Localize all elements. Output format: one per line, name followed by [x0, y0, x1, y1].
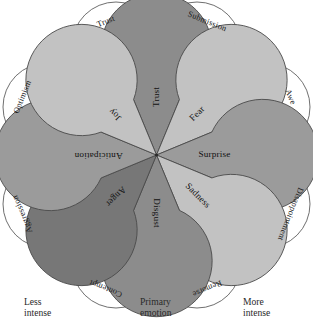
- intensity-axis-row: Less intense Primary emotion More intens…: [0, 296, 313, 320]
- axis-label-more: More intense: [243, 296, 270, 318]
- petal-label: Trust: [151, 87, 161, 107]
- axis-label-less: Less intense: [24, 296, 51, 318]
- petal-label: Anticipation: [74, 151, 123, 161]
- axis-label-primary-line2: emotion: [140, 307, 171, 318]
- axis-label-primary: Primary emotion: [140, 296, 171, 318]
- axis-label-more-line2: intense: [243, 307, 270, 318]
- axis-label-primary-line1: Primary: [140, 296, 171, 307]
- axis-label-less-line2: intense: [24, 307, 51, 318]
- plutchik-wheel-svg: TrustSubmissionAweDisappointmentRemorseC…: [0, 0, 313, 320]
- petal-label: Surprise: [198, 149, 230, 159]
- emotion-wheel-figure: TrustSubmissionAweDisappointmentRemorseC…: [0, 0, 313, 320]
- wheel-center-dot: [155, 153, 158, 156]
- axis-label-less-line1: Less: [24, 296, 51, 307]
- primary-petal-group: [0, 0, 313, 317]
- axis-label-more-line1: More: [243, 296, 270, 307]
- petal-label: Disgust: [152, 198, 162, 228]
